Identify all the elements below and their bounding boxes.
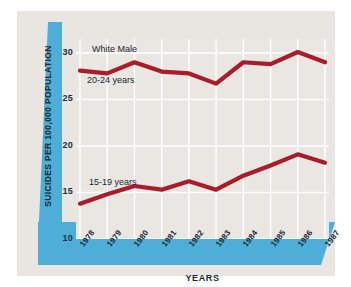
series-label-15-19: 15-19 years [89,177,137,187]
y-axis-tick-labels: 1015202530 [35,39,73,239]
series-label-20-24: 20-24 years [87,75,135,85]
chart-figure: 1015202530 SUICIDES PER 100,000 POPULATI… [0,0,351,287]
plot-svg [76,39,329,239]
y-axis-title: SUICIDES PER 100,000 POPULATION [43,28,53,224]
plot-area [76,39,329,239]
x-axis-title: YEARS [76,273,329,283]
chart-card: 1015202530 SUICIDES PER 100,000 POPULATI… [17,11,335,276]
y-tick-label: 10 [39,233,73,243]
chart-title: White Male [92,44,137,54]
x-axis-tick-labels: 1978197919801981198219831984198519861987 [76,243,329,277]
